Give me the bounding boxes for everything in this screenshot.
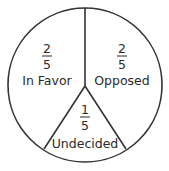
opposed-label: Opposed [94,73,150,88]
in-favor-label: In Favor [22,73,72,88]
in-favor-denominator: 5 [43,57,51,72]
pie-chart: 2 5 In Favor 2 5 Opposed 1 5 Undecided [0,0,169,171]
undecided-numerator: 1 [81,102,89,117]
opposed-denominator: 5 [118,57,126,72]
undecided-denominator: 5 [81,118,89,133]
opposed-numerator: 2 [118,41,126,56]
undecided-label: Undecided [52,136,119,151]
in-favor-numerator: 2 [43,41,51,56]
